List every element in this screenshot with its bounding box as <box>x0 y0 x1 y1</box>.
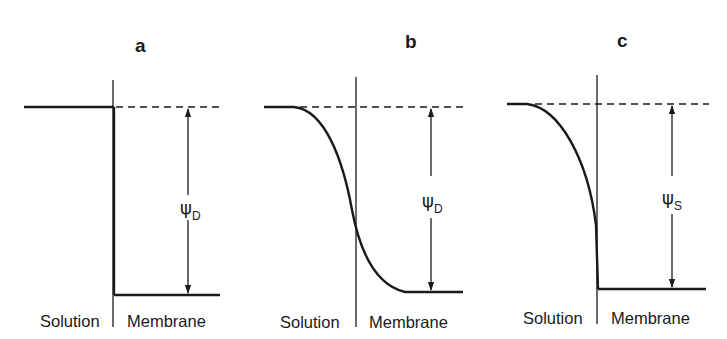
potential-curve <box>507 104 598 289</box>
panel-label: b <box>405 31 417 52</box>
solution-label: Solution <box>280 313 340 331</box>
panel-a: a ψD Solution Membrane <box>24 35 222 330</box>
membrane-label: Membrane <box>611 309 690 327</box>
solution-label: Solution <box>523 309 583 327</box>
panel-label: c <box>617 30 628 51</box>
potential-profile-figure: a ψD Solution Membrane b ψD Solution Mem… <box>0 0 727 339</box>
potential-label: ψD <box>422 190 443 216</box>
solution-label: Solution <box>40 312 100 330</box>
membrane-label: Membrane <box>127 312 206 330</box>
panel-b: b ψD Solution Membrane <box>264 31 466 331</box>
panel-label: a <box>135 35 146 56</box>
potential-label: ψD <box>180 197 201 223</box>
potential-label: ψS <box>662 187 682 213</box>
membrane-label: Membrane <box>369 313 448 331</box>
panel-c: c ψS Solution Membrane <box>507 30 709 327</box>
